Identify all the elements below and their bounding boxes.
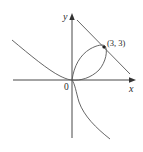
curve-loop <box>72 45 106 80</box>
y-axis-arrow-icon <box>69 13 74 20</box>
point-label: (3, 3) <box>107 38 126 48</box>
origin-label: 0 <box>64 82 69 92</box>
tangent-point-marker <box>102 45 105 48</box>
x-axis-arrow-icon <box>129 77 136 82</box>
y-axis-label: y <box>62 11 68 22</box>
curve-lower-branch <box>72 80 110 139</box>
curve-left-branch <box>12 40 72 80</box>
x-axis-label: x <box>128 83 134 94</box>
folium-diagram: y x 0 (3, 3) <box>0 0 143 152</box>
